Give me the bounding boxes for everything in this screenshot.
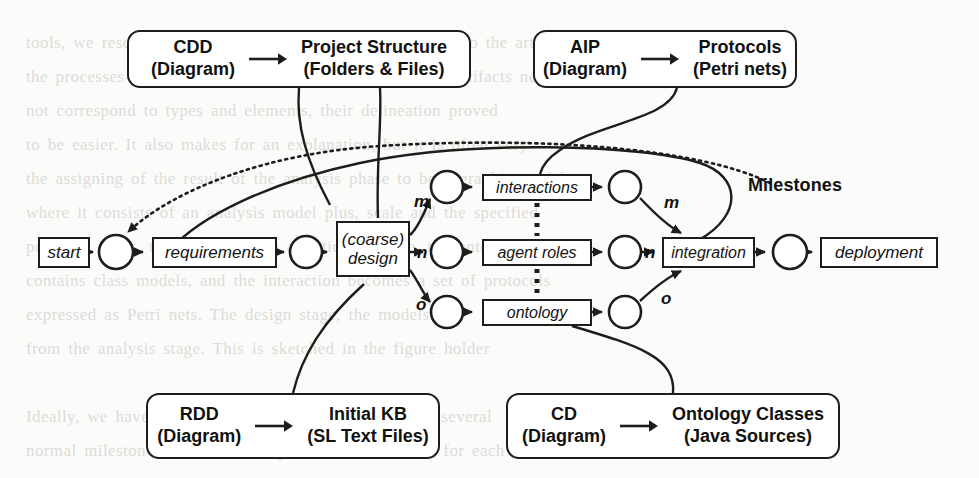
node-integration[interactable]: integration [662, 237, 755, 268]
node-agent-roles[interactable]: agent roles [482, 239, 592, 266]
node-start-label: start [47, 243, 80, 262]
cdd-annotation-target-line2: (Folders & Files) [301, 59, 447, 81]
diagram-canvas: tools, we resort to the outcomes of thes… [0, 0, 979, 478]
right-arrow-icon [618, 417, 660, 435]
node-interactions-label: interactions [496, 179, 578, 197]
rdd-annotation-target: Initial KB (SL Text Files) [307, 404, 428, 448]
cd-annotation-source-line1: CD [522, 404, 606, 426]
edge-label-n-left: n [417, 243, 427, 263]
cdd-annotation-target: Project Structure (Folders & Files) [301, 37, 447, 81]
cdd-annotation-source-line1: CDD [151, 37, 235, 59]
aip-annotation-target: Protocols (Petri nets) [693, 37, 787, 81]
edge-label-m-left: m [414, 192, 429, 212]
leader-cdd-to-design-alt [378, 88, 381, 218]
cdd-annotation-source-line2: (Diagram) [151, 59, 235, 81]
aip-annotation-target-line1: Protocols [693, 37, 787, 59]
aip-annotation-source-line2: (Diagram) [543, 59, 627, 81]
node-requirements-label: requirements [165, 243, 264, 262]
cd-annotation-target-line2: (Java Sources) [672, 426, 824, 448]
cd-annotation-source: CD (Diagram) [522, 404, 606, 448]
rdd-annotation-source-line1: RDD [157, 404, 241, 426]
right-arrow-icon [247, 50, 289, 68]
cd-annotation-target-line1: Ontology Classes [672, 404, 824, 426]
cd-annotation-target: Ontology Classes (Java Sources) [672, 404, 824, 448]
cdd-annotation-source: CDD (Diagram) [151, 37, 235, 81]
cdd-annotation[interactable]: CDD (Diagram) Project Structure (Folders… [127, 30, 471, 88]
node-interactions[interactable]: interactions [482, 174, 592, 201]
aip-annotation-source-line1: AIP [543, 37, 627, 59]
rdd-annotation-source: RDD (Diagram) [157, 404, 241, 448]
edge-label-n-right: n [645, 243, 655, 263]
node-ontology-label: ontology [507, 304, 568, 322]
edge-label-o-right: o [661, 289, 671, 309]
node-integration-label: integration [671, 244, 746, 262]
leader-rdd-to-design [293, 284, 364, 393]
node-agent-roles-label: agent roles [497, 244, 576, 262]
edge-label-m-right: m [664, 193, 679, 213]
rdd-annotation-source-line2: (Diagram) [157, 426, 241, 448]
leader-cdd-to-design [298, 88, 330, 205]
leader-cd-to-ontology [572, 326, 673, 393]
milestones-label: Milestones [748, 175, 842, 196]
right-arrow-icon [639, 50, 681, 68]
node-start[interactable]: start [38, 237, 90, 268]
node-coarse-design-label-line1: (coarse) [342, 230, 404, 249]
node-deployment[interactable]: deployment [820, 237, 938, 268]
cd-annotation-source-line2: (Diagram) [522, 426, 606, 448]
rdd-annotation-target-line1: Initial KB [307, 404, 428, 426]
aip-annotation-target-line2: (Petri nets) [693, 59, 787, 81]
aip-annotation-source: AIP (Diagram) [543, 37, 627, 81]
edge-label-o-left: o [416, 295, 426, 315]
aip-annotation[interactable]: AIP (Diagram) Protocols (Petri nets) [533, 30, 797, 88]
cd-annotation[interactable]: CD (Diagram) Ontology Classes (Java Sour… [506, 393, 840, 459]
right-arrow-icon [253, 417, 295, 435]
node-coarse-design[interactable]: (coarse) design [336, 221, 410, 277]
outer-loop-edge [170, 147, 731, 250]
node-deployment-label: deployment [835, 243, 923, 262]
node-ontology[interactable]: ontology [482, 299, 592, 326]
leader-aip-to-interactions [540, 88, 677, 174]
node-requirements[interactable]: requirements [152, 237, 277, 268]
cdd-annotation-target-line1: Project Structure [301, 37, 447, 59]
rdd-annotation[interactable]: RDD (Diagram) Initial KB (SL Text Files) [146, 393, 440, 459]
rdd-annotation-target-line2: (SL Text Files) [307, 426, 428, 448]
node-coarse-design-label-line2: design [348, 249, 398, 268]
